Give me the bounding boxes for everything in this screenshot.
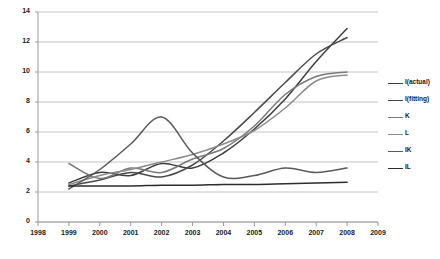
x-tick-label: 2001 xyxy=(114,229,148,236)
series-line-ik xyxy=(69,117,347,189)
line-chart: 02468101214 1998199920002001200220032004… xyxy=(0,0,440,259)
y-tick-label: 12 xyxy=(8,37,30,44)
x-tick-label: 1999 xyxy=(52,229,86,236)
legend-label: IK xyxy=(405,146,412,153)
legend-swatch xyxy=(388,117,403,118)
legend-label: I(actual) xyxy=(405,78,430,85)
y-tick-label: 14 xyxy=(8,7,30,14)
legend-label: L xyxy=(405,129,409,136)
x-tick-label: 2004 xyxy=(206,229,240,236)
series-group xyxy=(69,29,347,190)
x-tick-label: 1998 xyxy=(21,229,55,236)
legend-label: IL xyxy=(405,163,411,170)
legend-label: I(fitting) xyxy=(405,95,429,102)
x-tick-label: 2006 xyxy=(268,229,302,236)
gridlines xyxy=(38,12,378,222)
y-tick-label: 6 xyxy=(8,127,30,134)
x-tick-label: 2003 xyxy=(176,229,210,236)
y-tick-label: 4 xyxy=(8,157,30,164)
x-tick-label: 2005 xyxy=(237,229,271,236)
series-line-iactual xyxy=(69,29,347,184)
y-tick-label: 0 xyxy=(8,217,30,224)
legend-swatch xyxy=(388,168,403,169)
legend-swatch xyxy=(388,134,403,135)
x-tick-label: 2007 xyxy=(299,229,333,236)
legend-swatch xyxy=(388,100,403,101)
series-line-il xyxy=(69,182,347,186)
legend-swatch xyxy=(388,83,403,84)
legend-swatch xyxy=(388,151,403,152)
x-tick-label: 2009 xyxy=(361,229,395,236)
series-line-ifitting xyxy=(69,38,347,187)
x-tick-label: 2008 xyxy=(330,229,364,236)
x-tick-label: 2002 xyxy=(145,229,179,236)
legend-label: K xyxy=(405,112,410,119)
x-tick-label: 2000 xyxy=(83,229,117,236)
y-tick-label: 8 xyxy=(8,97,30,104)
y-tick-label: 10 xyxy=(8,67,30,74)
chart-canvas xyxy=(0,0,440,259)
y-tick-label: 2 xyxy=(8,187,30,194)
